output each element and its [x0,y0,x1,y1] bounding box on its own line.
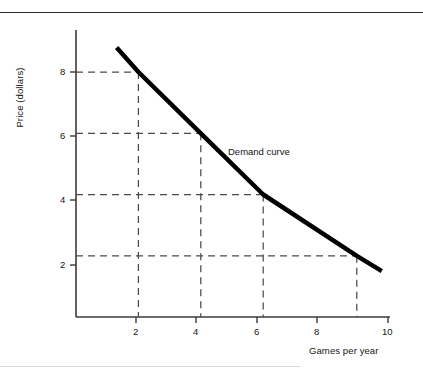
y-tick-label-4: 4 [60,194,65,205]
x-tick-label-10: 10 [382,326,393,337]
x-tick-label-8: 8 [314,326,319,337]
demand-curve-annotation: Demand curve [228,146,290,157]
y-tick-marks [70,72,76,265]
x-axis-label: Games per year [309,345,379,356]
y-tick-label-6: 6 [60,130,65,141]
demand-curve-line [117,48,382,272]
x-tick-label-2: 2 [133,326,138,337]
x-tick-label-6: 6 [254,326,259,337]
x-tick-marks [136,317,388,323]
footer-divider [0,366,300,367]
demand-curve-chart [0,0,423,373]
y-tick-label-8: 8 [60,66,65,77]
demand-curve-figure: 8 6 4 2 2 4 6 8 10 Price (dollars) Games… [0,0,423,373]
x-tick-label-4: 4 [193,326,198,337]
y-tick-label-2: 2 [60,259,65,270]
y-axis-label: Price (dollars) [14,52,25,144]
